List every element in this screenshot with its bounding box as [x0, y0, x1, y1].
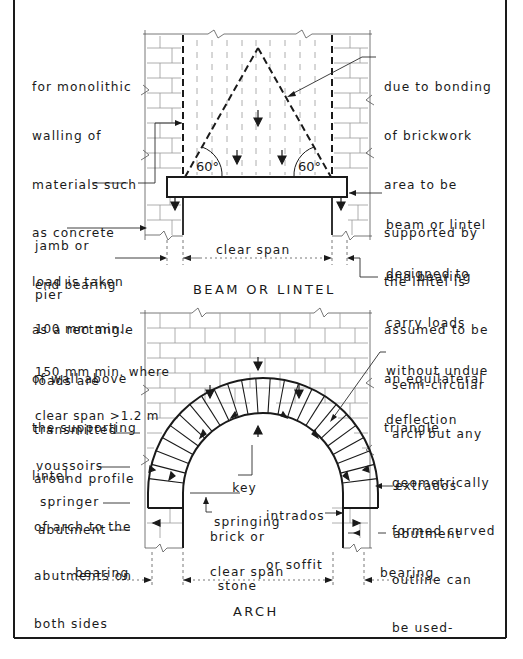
springer-label: springer: [40, 494, 99, 510]
angle-right-label: 60°: [298, 159, 321, 174]
note-line: arch but any: [392, 426, 496, 442]
note-line: materials such: [32, 177, 137, 193]
bearing-right-label: bearing: [380, 565, 434, 581]
springing-label: springing: [214, 514, 281, 530]
note-line: transmitted: [34, 422, 135, 438]
angle-left-label: 60°: [196, 159, 219, 174]
note-line: key: [210, 480, 265, 496]
note-line: beam or lintel: [386, 217, 488, 233]
note-line: of brickwork: [384, 128, 492, 144]
abutment-right-label: abutment: [393, 526, 461, 542]
extrados-label: extrados: [395, 478, 457, 494]
beam-heading: BEAM OR LINTEL: [193, 282, 336, 297]
note-line: 100 mm min..: [35, 322, 170, 337]
note-line: brick or: [210, 529, 265, 545]
note-line: semi-circular: [392, 377, 496, 393]
note-line: walling of: [32, 128, 137, 144]
end-bearing-right-label: end bearing: [386, 269, 472, 285]
lintel-beam: [167, 177, 347, 197]
note-line: due to bonding: [384, 79, 492, 95]
note-line: both sides: [34, 616, 135, 632]
note-line: end bearing: [35, 278, 170, 293]
beam-clear-span-label: clear span: [216, 242, 290, 258]
arch-heading: ARCH: [233, 604, 279, 619]
arch-clear-span-label: clear span: [210, 564, 284, 580]
bearing-left-label: bearing: [75, 565, 129, 581]
note-line: loads are: [34, 373, 135, 389]
note-line: be used-: [392, 620, 496, 636]
note-line: carry loads: [386, 315, 488, 331]
semi-circular-arch-note: semi-circular arch but any geometrically…: [392, 345, 496, 653]
note-line: for monolithic: [32, 79, 137, 95]
abutment-left-label: abutment: [38, 522, 106, 538]
monolithic-rectangle-outline: [183, 35, 332, 177]
voussoirs-label: voussoirs: [36, 458, 103, 474]
